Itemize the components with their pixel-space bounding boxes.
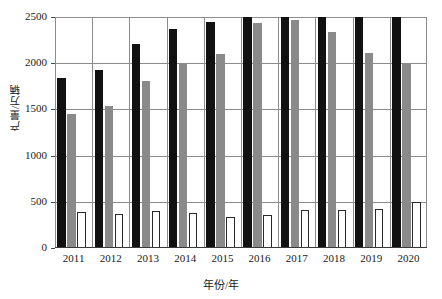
bar-white-series-2020: [412, 202, 421, 248]
x-tick-2014: 2014: [167, 252, 204, 264]
x-tick-2012: 2012: [92, 252, 129, 264]
bar-black-series-2013: [132, 44, 141, 248]
x-tick-2017: 2017: [278, 252, 315, 264]
x-tick-2019: 2019: [353, 252, 390, 264]
bar-gray-series-2015: [216, 54, 225, 248]
bar-white-series-2017: [301, 210, 310, 248]
bar-gray-series-2013: [142, 81, 151, 248]
x-tick-2016: 2016: [241, 252, 278, 264]
x-tick-2011: 2011: [55, 252, 92, 264]
bar-white-series-2013: [152, 211, 161, 248]
axis-bottom: [55, 247, 427, 249]
bar-chart: 产量/万辆 05001000150020002500 2011201220132…: [0, 0, 442, 299]
y-tickmark: [51, 248, 55, 249]
bar-white-series-2019: [375, 209, 384, 248]
bar-black-series-2018: [318, 17, 327, 248]
y-tick-1500: 1500: [11, 103, 47, 114]
x-tick-2013: 2013: [129, 252, 166, 264]
x-axis-label: 年份/年: [0, 276, 442, 292]
bar-white-series-2015: [226, 217, 235, 248]
bar-black-series-2015: [206, 22, 215, 248]
bar-gray-series-2014: [179, 64, 188, 248]
y-tick-0: 0: [11, 242, 47, 253]
y-tick-2000: 2000: [11, 57, 47, 68]
y-tick-500: 500: [11, 196, 47, 207]
bar-black-series-2019: [355, 17, 364, 248]
category-separator: [353, 17, 354, 248]
bar-gray-series-2016: [253, 23, 262, 248]
bar-white-series-2018: [338, 210, 347, 248]
x-tick-2015: 2015: [204, 252, 241, 264]
bar-black-series-2017: [281, 17, 290, 248]
bar-white-series-2011: [77, 212, 86, 248]
category-separator: [241, 17, 242, 248]
bar-white-series-2016: [263, 215, 272, 248]
bar-black-series-2016: [243, 17, 252, 248]
axis-left: [55, 17, 56, 248]
axis-right: [426, 17, 427, 248]
bar-gray-series-2017: [291, 20, 300, 248]
x-tick-2018: 2018: [315, 252, 352, 264]
category-separator: [278, 17, 279, 248]
category-separator: [167, 17, 168, 248]
bar-gray-series-2018: [328, 32, 337, 248]
category-separator: [315, 17, 316, 248]
category-separator: [204, 17, 205, 248]
bar-white-series-2014: [189, 213, 198, 248]
bar-black-series-2012: [95, 70, 104, 248]
plot-area: [55, 17, 427, 248]
bar-white-series-2012: [115, 214, 124, 248]
bar-gray-series-2019: [365, 53, 374, 248]
bar-gray-series-2020: [402, 64, 411, 248]
category-separator: [390, 17, 391, 248]
y-tick-2500: 2500: [11, 11, 47, 22]
bar-black-series-2020: [392, 17, 401, 248]
bar-gray-series-2011: [67, 114, 76, 248]
y-tick-1000: 1000: [11, 150, 47, 161]
category-separator: [129, 17, 130, 248]
category-separator: [92, 17, 93, 248]
bar-black-series-2014: [169, 29, 178, 248]
x-tick-2020: 2020: [390, 252, 427, 264]
bar-gray-series-2012: [105, 106, 114, 248]
bar-black-series-2011: [57, 78, 66, 248]
